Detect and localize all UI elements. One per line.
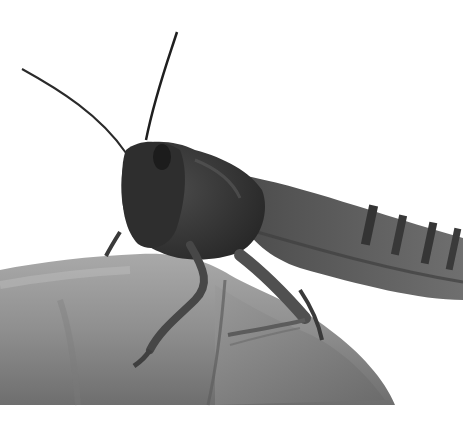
grasshopper-photo (0, 0, 463, 428)
photo-canvas (0, 0, 463, 428)
